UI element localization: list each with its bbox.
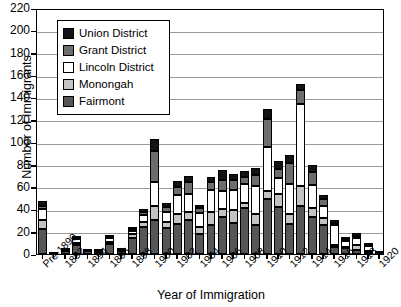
legend: Union DistrictGrant DistrictLincoln Dist… <box>57 20 170 115</box>
legend-item-grant-district[interactable]: Grant District <box>63 42 164 59</box>
bar-segment-monongah <box>240 203 249 209</box>
x-tick-mark <box>255 255 257 259</box>
bar-segment-monongah <box>128 234 137 238</box>
bar-1906[interactable] <box>218 170 227 254</box>
bar-segment-lincoln-district <box>240 184 249 203</box>
bar-1911[interactable] <box>274 161 283 254</box>
legend-item-monongah[interactable]: Monongah <box>63 76 164 93</box>
y-tick-label: 220 <box>0 1 30 15</box>
y-tick-label: 20 <box>0 225 30 239</box>
bar-segment-monongah <box>285 214 294 224</box>
bar-segment-monongah <box>263 191 272 199</box>
bar-segment-fairmont <box>308 217 317 254</box>
bar-segment-lincoln-district <box>162 212 171 222</box>
bar-1904[interactable] <box>195 205 204 254</box>
bar-segment-lincoln-district <box>274 178 283 194</box>
y-tick-label: 60 <box>0 180 30 194</box>
bar-segment-fairmont <box>218 217 227 254</box>
bar-segment-monongah <box>195 227 204 234</box>
y-tick-label: 120 <box>0 113 30 127</box>
bar-segment-lincoln-district <box>128 231 137 234</box>
bar-segment-grant-district <box>229 180 238 190</box>
x-tick-mark <box>345 255 347 259</box>
legend-swatch-icon <box>63 28 74 39</box>
bar-segment-grant-district <box>319 199 328 206</box>
bar-1914[interactable] <box>308 165 317 254</box>
legend-label: Monongah <box>79 79 133 91</box>
bar-segment-lincoln-district <box>263 147 272 192</box>
bar-segment-union-district <box>296 84 305 90</box>
bar-segment-grant-district <box>218 180 227 191</box>
y-tick-label: 160 <box>0 68 30 82</box>
y-tick-label: 100 <box>0 135 30 149</box>
bar-segment-grant-district <box>251 175 260 186</box>
bar-segment-union-district <box>162 203 171 207</box>
bar-segment-lincoln-district <box>105 238 114 241</box>
bar-1912[interactable] <box>285 154 294 254</box>
bar-segment-union-district <box>229 174 238 181</box>
bar-segment-lincoln-district <box>38 209 47 220</box>
y-tick-label: 80 <box>0 158 30 172</box>
bar-segment-lincoln-district <box>150 182 159 205</box>
bar-segment-grant-district <box>308 172 317 184</box>
bar-segment-fairmont <box>150 220 159 254</box>
x-tick-mark <box>300 255 302 259</box>
x-tick-mark <box>367 255 369 259</box>
legend-label: Union District <box>79 28 147 40</box>
bar-segment-grant-district <box>207 182 216 190</box>
bar-segment-monongah <box>229 210 238 222</box>
bar-segment-lincoln-district <box>330 225 339 245</box>
bar-1908[interactable] <box>240 171 249 254</box>
bar-segment-monongah <box>218 209 227 217</box>
bar-1916[interactable] <box>330 220 339 254</box>
bar-segment-monongah <box>274 194 283 207</box>
bar-segment-union-district <box>330 220 339 222</box>
legend-item-union-district[interactable]: Union District <box>63 25 164 42</box>
bar-segment-union-district <box>150 139 159 151</box>
legend-item-lincoln-district[interactable]: Lincoln District <box>63 59 164 76</box>
bar-1902[interactable] <box>173 181 182 254</box>
bar-segment-grant-district <box>195 208 204 212</box>
bar-segment-union-district <box>341 237 350 239</box>
x-tick-mark <box>188 255 190 259</box>
bar-segment-union-district <box>139 209 148 211</box>
bar-segment-monongah <box>105 242 114 244</box>
bar-segment-monongah <box>296 186 305 206</box>
bar-segment-union-district <box>195 205 204 208</box>
bar-segment-lincoln-district <box>229 190 238 210</box>
bar-segment-union-district <box>128 227 137 229</box>
legend-swatch-icon <box>63 62 74 73</box>
bar-segment-monongah <box>173 214 182 224</box>
legend-label: Grant District <box>79 45 146 57</box>
legend-swatch-icon <box>63 79 74 90</box>
bar-1909[interactable] <box>251 168 260 254</box>
bar-segment-grant-district <box>330 223 339 225</box>
bar-segment-monongah <box>184 212 193 221</box>
bar-segment-union-district <box>251 168 260 175</box>
y-tick-label: 180 <box>0 46 30 60</box>
bar-1910[interactable] <box>263 109 272 254</box>
x-tick-mark <box>75 255 77 259</box>
bar-segment-union-district <box>308 165 317 173</box>
bar-segment-lincoln-district <box>296 104 305 186</box>
bar-1903[interactable] <box>184 176 193 254</box>
y-tick-label: 140 <box>0 90 30 104</box>
bar-1900[interactable] <box>150 139 159 254</box>
bar-segment-monongah <box>150 206 159 221</box>
bar-segment-monongah <box>251 214 260 225</box>
bar-segment-union-district <box>105 235 114 237</box>
bar-segment-grant-district <box>240 177 249 184</box>
x-axis-title: Year of Immigration <box>36 288 386 302</box>
bar-1907[interactable] <box>229 174 238 255</box>
bar-segment-union-district <box>274 161 283 169</box>
x-tick-mark <box>322 255 324 259</box>
bar-1913[interactable] <box>296 84 305 254</box>
x-tick-mark <box>210 255 212 259</box>
bar-1905[interactable] <box>207 177 216 254</box>
bar-segment-union-district <box>319 195 328 199</box>
legend-item-fairmont[interactable]: Fairmont <box>63 93 164 110</box>
bar-segment-monongah <box>38 220 47 229</box>
legend-swatch-icon <box>63 45 74 56</box>
bar-segment-monongah <box>319 218 328 225</box>
bar-Pre-1890[interactable] <box>38 201 47 254</box>
